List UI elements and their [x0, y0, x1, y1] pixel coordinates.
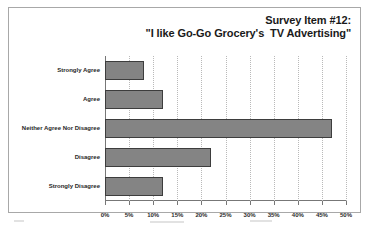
bar-row: Strongly Disagree	[105, 177, 346, 196]
x-tick-label: 45%	[316, 212, 328, 218]
x-tick-mark	[129, 201, 130, 205]
x-tick-label: 30%	[244, 212, 256, 218]
x-tick-mark	[226, 201, 227, 205]
category-label-strongly-agree: Strongly Agree	[57, 67, 100, 73]
bar-neither-agree-nor-disagree	[105, 119, 332, 138]
gridline-50%	[346, 56, 347, 201]
scan-artifact	[250, 220, 272, 222]
x-tick-mark	[250, 201, 251, 205]
x-tick-label: 20%	[195, 212, 207, 218]
scan-artifact	[150, 221, 184, 223]
chart-title-line-1: Survey Item #12:	[146, 14, 351, 27]
bar-strongly-agree	[105, 61, 144, 80]
chart-title: Survey Item #12: "I like Go-Go Grocery's…	[146, 14, 351, 41]
chart-figure: Survey Item #12: "I like Go-Go Grocery's…	[8, 7, 361, 213]
x-tick-mark	[346, 201, 347, 205]
x-tick-mark	[274, 201, 275, 205]
bar-row: Agree	[105, 90, 346, 109]
bar-strongly-disagree	[105, 177, 163, 196]
category-label-disagree: Disagree	[75, 154, 100, 160]
x-tick-label: 15%	[171, 212, 183, 218]
category-label-neither-agree-nor-disagree: Neither Agree Nor Disagree	[22, 125, 100, 131]
bar-row: Disagree	[105, 148, 346, 167]
bar-agree	[105, 90, 163, 109]
plot-area: Strongly AgreeAgreeNeither Agree Nor Dis…	[105, 56, 346, 201]
category-label-strongly-disagree: Strongly Disagree	[49, 183, 100, 189]
x-tick-label: 25%	[219, 212, 231, 218]
x-tick-label: 10%	[147, 212, 159, 218]
x-tick-mark	[201, 201, 202, 205]
chart-title-line-2: "I like Go-Go Grocery's TV Advertising"	[146, 27, 351, 40]
bar-row: Strongly Agree	[105, 61, 346, 80]
x-tick-label: 0%	[101, 212, 110, 218]
bar-row: Neither Agree Nor Disagree	[105, 119, 346, 138]
x-tick-mark	[177, 201, 178, 205]
x-tick-label: 5%	[125, 212, 134, 218]
x-tick-mark	[322, 201, 323, 205]
x-tick-mark	[298, 201, 299, 205]
x-tick-label: 35%	[268, 212, 280, 218]
scan-artifact	[14, 220, 24, 222]
bar-disagree	[105, 148, 211, 167]
x-tick-label: 40%	[292, 212, 304, 218]
category-label-agree: Agree	[83, 96, 100, 102]
x-tick-label: 50%	[340, 212, 352, 218]
x-tick-mark	[105, 201, 106, 205]
x-tick-mark	[153, 201, 154, 205]
